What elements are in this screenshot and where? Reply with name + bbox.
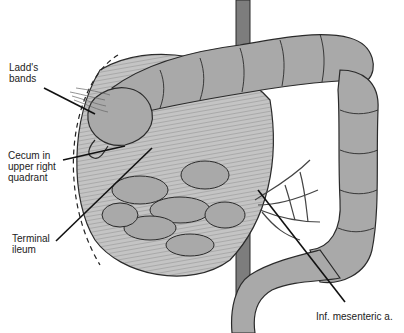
label-inf-mesenteric: Inf. mesenteric a. (316, 311, 393, 322)
label-ladds-bands: Ladd's bands (9, 62, 38, 84)
label-terminal-ileum: Terminal ileum (12, 233, 50, 255)
label-cecum: Cecum in upper right quadrant (8, 150, 56, 183)
cecum (88, 88, 153, 146)
intestine-illustration (0, 0, 404, 333)
anatomy-figure: Ladd's bands Cecum in upper right quadra… (0, 0, 404, 333)
